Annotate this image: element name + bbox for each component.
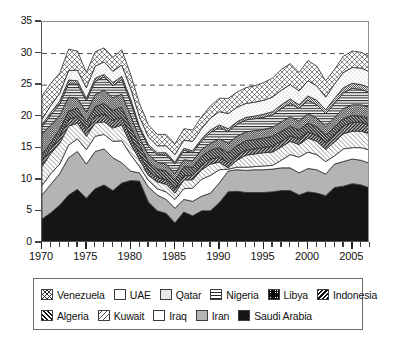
x-tick-mark-1990 — [218, 242, 219, 249]
legend-row-2: AlgeriaKuwaitIraqIranSaudi Arabia — [41, 305, 356, 326]
legend-item-qatar[interactable]: Qatar — [160, 289, 202, 301]
plot-area — [41, 21, 369, 242]
legend-swatch-kuwait-icon — [98, 310, 110, 321]
x-tick-label-1995: 1995 — [251, 250, 275, 262]
legend-label: Qatar — [176, 289, 202, 301]
x-tick-mark-2000 — [307, 242, 308, 249]
x-tick-mark-1979 — [121, 242, 122, 247]
x-tick-mark-1972 — [59, 242, 60, 247]
x-tick-label-2000: 2000 — [295, 250, 319, 262]
legend-item-algeria[interactable]: Algeria — [41, 310, 89, 322]
stacked-area-chart-figure: 05101520253035 — [0, 0, 393, 345]
x-tick-mark-2003 — [334, 242, 335, 247]
legend-swatch-indonesia-icon — [317, 289, 329, 300]
legend-label: Iran — [212, 310, 230, 322]
legend-label: UAE — [130, 289, 151, 301]
x-tick-mark-1993 — [245, 242, 246, 247]
x-tick-mark-2001 — [316, 242, 317, 247]
x-tick-label-2005: 2005 — [339, 250, 363, 262]
legend-swatch-iraq-icon — [153, 310, 165, 321]
x-tick-mark-1999 — [298, 242, 299, 247]
legend-item-iran[interactable]: Iran — [196, 310, 230, 322]
legend-label: Nigeria — [226, 289, 258, 301]
chart-canvas — [42, 22, 369, 242]
x-tick-mark-1984 — [165, 242, 166, 247]
x-tick-mark-2006 — [360, 242, 361, 247]
x-tick-mark-1974 — [76, 242, 77, 247]
x-tick-mark-1997 — [280, 242, 281, 247]
x-tick-label-1990: 1990 — [206, 250, 230, 262]
x-tick-mark-1992 — [236, 242, 237, 247]
y-tick-label-0: 0 — [6, 235, 32, 247]
legend-label: Libya — [284, 289, 308, 301]
y-tick-label-25: 25 — [6, 77, 32, 89]
x-tick-mark-2002 — [325, 242, 326, 247]
legend-item-saudi-arabia[interactable]: Saudi Arabia — [238, 310, 312, 322]
y-axis: 05101520253035 — [0, 0, 41, 250]
x-tick-mark-1977 — [103, 242, 104, 247]
x-tick-label-1970: 1970 — [29, 250, 53, 262]
x-tick-mark-1970 — [41, 242, 42, 249]
legend-swatch-iran-icon — [196, 310, 208, 321]
y-tick-label-30: 30 — [6, 46, 32, 58]
x-tick-mark-1971 — [50, 242, 51, 247]
x-tick-mark-2004 — [342, 242, 343, 247]
y-tick-label-20: 20 — [6, 109, 32, 121]
legend-swatch-venezuela-icon — [41, 289, 53, 300]
x-tick-mark-2007 — [369, 242, 370, 247]
x-tick-mark-1982 — [147, 242, 148, 247]
x-tick-mark-1973 — [68, 242, 69, 247]
legend-row-1: VenezuelaUAEQatarNigeriaLibyaIndonesia — [41, 284, 356, 305]
legend-item-nigeria[interactable]: Nigeria — [210, 289, 258, 301]
x-tick-label-1985: 1985 — [162, 250, 186, 262]
x-tick-mark-1988 — [201, 242, 202, 247]
x-axis: 19701975198019851990199520002005 — [41, 242, 371, 272]
x-tick-mark-1994 — [254, 242, 255, 247]
x-tick-mark-1978 — [112, 242, 113, 247]
x-tick-mark-1996 — [271, 242, 272, 247]
x-tick-mark-1976 — [94, 242, 95, 247]
x-tick-mark-1991 — [227, 242, 228, 247]
legend-item-venezuela[interactable]: Venezuela — [41, 289, 105, 301]
legend-label: Algeria — [57, 310, 89, 322]
legend-item-uae[interactable]: UAE — [114, 289, 151, 301]
legend-label: Indonesia — [333, 289, 377, 301]
legend-item-kuwait[interactable]: Kuwait — [98, 310, 145, 322]
legend-swatch-libya-icon — [268, 289, 280, 300]
legend-item-indonesia[interactable]: Indonesia — [317, 289, 377, 301]
x-tick-mark-2005 — [351, 242, 352, 249]
legend-swatch-uae-icon — [114, 289, 126, 300]
y-tick-label-10: 10 — [6, 172, 32, 184]
legend-item-iraq[interactable]: Iraq — [153, 310, 187, 322]
legend-label: Saudi Arabia — [254, 310, 312, 322]
x-tick-label-1975: 1975 — [73, 250, 97, 262]
legend-swatch-saudi-arabia-icon — [238, 310, 250, 321]
y-tick-label-35: 35 — [6, 14, 32, 26]
legend-swatch-algeria-icon — [41, 310, 53, 321]
x-tick-mark-1998 — [289, 242, 290, 247]
x-tick-mark-1980 — [130, 242, 131, 249]
x-tick-mark-1985 — [174, 242, 175, 249]
legend-item-libya[interactable]: Libya — [268, 289, 308, 301]
chart-legend: VenezuelaUAEQatarNigeriaLibyaIndonesia A… — [33, 278, 363, 330]
x-tick-label-1980: 1980 — [118, 250, 142, 262]
y-tick-label-5: 5 — [6, 203, 32, 215]
legend-label: Kuwait — [114, 310, 145, 322]
legend-swatch-nigeria-icon — [210, 289, 222, 300]
x-tick-mark-1983 — [156, 242, 157, 247]
x-tick-mark-1981 — [139, 242, 140, 247]
x-tick-mark-1986 — [183, 242, 184, 247]
stacked-area-series — [42, 48, 369, 242]
legend-swatch-qatar-icon — [160, 289, 172, 300]
x-tick-mark-1995 — [263, 242, 264, 249]
x-tick-mark-1975 — [85, 242, 86, 249]
y-tick-label-15: 15 — [6, 140, 32, 152]
legend-label: Iraq — [169, 310, 187, 322]
legend-label: Venezuela — [57, 289, 105, 301]
x-tick-mark-1987 — [192, 242, 193, 247]
x-tick-mark-1989 — [209, 242, 210, 247]
